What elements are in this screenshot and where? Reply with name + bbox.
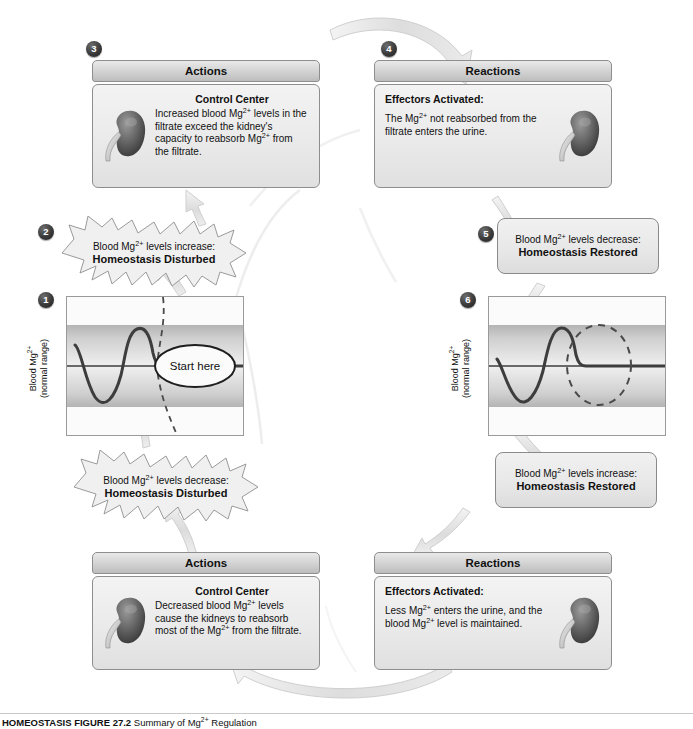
t1: Increased blood Mg [155, 108, 243, 119]
graph-left-plot: Start here [67, 297, 243, 435]
step-badge-4: 4 [381, 41, 397, 57]
burst-text: Blood Mg2+ levels increase: Homeostasis … [62, 240, 246, 266]
sup1: 2+ [423, 603, 431, 612]
panel-actions-bottom-body: Control Center Decreased blood Mg2+ leve… [92, 576, 320, 670]
panel-actions-top-title: Control Center [155, 93, 309, 105]
callout-text: Blood Mg2+ levels decrease: Homeostasis … [515, 233, 641, 259]
graph-left-frame: Start here [66, 296, 244, 436]
callout-box-increase-restored: Blood Mg2+ levels increase: Homeostasis … [495, 452, 657, 508]
l2: Homeostasis Restored [516, 480, 635, 492]
panel-reactions-bottom: Reactions Effectors Activated: Less Mg2+… [374, 552, 612, 670]
panel-reactions-top: Reactions Effectors Activated: The Mg2+ … [374, 60, 612, 188]
panel-reactions-bottom-body: Effectors Activated: Less Mg2+ enters th… [374, 576, 612, 670]
caption-tail: Regulation [209, 717, 257, 728]
burst-text: Blood Mg2+ levels decrease: Homeostasis … [74, 474, 258, 500]
l1b: levels increase: [565, 468, 637, 479]
l2: Homeostasis Disturbed [105, 487, 228, 499]
l1a: Blood Mg [515, 234, 557, 245]
ax2: (normal range) [38, 339, 48, 398]
panel-actions-top-text: Increased blood Mg2+ levels in the filtr… [155, 108, 309, 158]
graph-right-axis-label: Blood Mg2+ (normal range) [450, 326, 471, 412]
panel-reactions-top-text: The Mg2+ not reabsorbed from the filtrat… [385, 113, 545, 138]
l1a: Blood Mg [515, 468, 557, 479]
sup1: 2+ [243, 106, 251, 115]
panel-actions-bottom: Actions Control Center Decreased blood M… [92, 552, 320, 670]
l1sup: 2+ [146, 473, 154, 482]
panel-actions-bottom-title: Control Center [155, 585, 309, 597]
callout-box-decrease-restored: Blood Mg2+ levels decrease: Homeostasis … [497, 218, 659, 274]
sup2: 2+ [262, 131, 270, 140]
panel-reactions-bottom-title: Effectors Activated: [385, 585, 545, 597]
l2: Homeostasis Disturbed [93, 253, 216, 265]
homeostasis-figure: 3 Actions Cont [0, 0, 693, 729]
ax1: Blood Mg [450, 353, 460, 391]
panel-actions-top: Actions Control Cente [92, 60, 320, 188]
step-badge-3: 3 [86, 41, 102, 57]
sup1: 2+ [419, 111, 427, 120]
graph-left-axis-label: Blood Mg2+ (normal range) [28, 326, 49, 412]
l1b: levels decrease: [566, 234, 641, 245]
l2: Homeostasis Restored [518, 246, 637, 258]
kidney-icon [557, 595, 601, 651]
graph-panel-left: Start here [66, 296, 244, 436]
graph-left-marker-label: Start here [170, 360, 221, 372]
kidney-icon [103, 108, 147, 164]
l1sup: 2+ [558, 232, 566, 241]
step-badge-6: 6 [460, 292, 476, 308]
panel-actions-top-body: Control Center Increased blood Mg2+ leve… [92, 84, 320, 188]
t1: Less Mg [385, 605, 423, 616]
panel-actions-bottom-header: Actions [92, 552, 320, 574]
caption-lead: HOMEOSTASIS FIGURE 27.2 [2, 717, 131, 728]
kidney-icon [103, 595, 147, 651]
t1: Decreased blood Mg [155, 600, 247, 611]
graph-right-plot [489, 297, 665, 435]
panel-actions-top-header: Actions [92, 60, 320, 82]
panel-reactions-bottom-text: Less Mg2+ enters the urine, and the bloo… [385, 605, 545, 630]
ax2: (normal range) [460, 339, 470, 398]
callout-text: Blood Mg2+ levels increase: Homeostasis … [515, 467, 637, 493]
normal-range-bracket [488, 323, 490, 413]
graph-right-frame [488, 296, 666, 436]
callout-burst-increase-disturbed: Blood Mg2+ levels increase: Homeostasis … [62, 216, 246, 290]
caption-sup: 2+ [201, 716, 209, 723]
l1b: levels decrease: [154, 475, 229, 486]
axsup: 2+ [26, 346, 33, 353]
step-badge-5: 5 [478, 226, 494, 242]
l1b: levels increase: [143, 241, 215, 252]
normal-range-bracket [66, 323, 68, 413]
callout-burst-decrease-disturbed: Blood Mg2+ levels decrease: Homeostasis … [74, 450, 258, 524]
axsup: 2+ [448, 346, 455, 353]
kidney-icon [557, 108, 601, 164]
caption-divider [0, 713, 693, 714]
panel-reactions-bottom-header: Reactions [374, 552, 612, 574]
l1a: Blood Mg [93, 241, 135, 252]
caption-rest: Summary of Mg [134, 717, 201, 728]
panel-reactions-top-body: Effectors Activated: The Mg2+ not reabso… [374, 84, 612, 188]
panel-actions-bottom-text: Decreased blood Mg2+ levels cause the ki… [155, 600, 309, 638]
step-badge-2: 2 [38, 224, 54, 240]
t3: from the filtrate. [229, 625, 301, 636]
ax1: Blood Mg [28, 353, 38, 391]
t3: level is maintained. [434, 618, 522, 629]
panel-reactions-top-header: Reactions [374, 60, 612, 82]
graph-panel-right [488, 296, 666, 436]
arrow-increase-to-reactions-bottom [412, 508, 470, 556]
panel-reactions-top-title: Effectors Activated: [385, 93, 545, 105]
l1a: Blood Mg [103, 475, 145, 486]
t1: The Mg [385, 113, 419, 124]
step-badge-1: 1 [38, 292, 54, 308]
figure-caption: HOMEOSTASIS FIGURE 27.2 Summary of Mg2+ … [2, 717, 257, 728]
